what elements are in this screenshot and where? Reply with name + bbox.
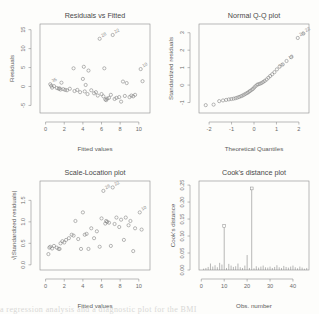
svg-text:10: 10	[141, 61, 148, 68]
svg-text:6: 6	[100, 283, 103, 289]
svg-text:0: 0	[20, 85, 26, 88]
svg-text:6: 6	[100, 126, 103, 132]
svg-text:10: 10	[221, 283, 227, 289]
svg-text:Residuals: Residuals	[8, 55, 15, 82]
normal-qq-svg: Normal Q-Q plot-2-1012Theoretical Quanti…	[159, 0, 319, 157]
svg-text:0.5: 0.5	[20, 239, 26, 247]
svg-text:0.00: 0.00	[179, 265, 185, 276]
svg-text:2: 2	[63, 126, 66, 132]
svg-text:0.0: 0.0	[20, 261, 26, 269]
svg-text:-1: -1	[229, 126, 234, 132]
svg-text:30: 30	[267, 283, 273, 289]
svg-text:10: 10	[287, 53, 294, 60]
svg-text:0.10: 0.10	[179, 231, 185, 242]
svg-text:Standardized residuals: Standardized residuals	[167, 37, 174, 100]
svg-text:1: 1	[179, 66, 185, 69]
svg-text:8: 8	[119, 283, 122, 289]
page-cutoff-text: a regression analysis and a diagnostic p…	[0, 305, 319, 314]
panel-residuals-vs-fitted: Residuals vs Fitted0246810Fitted values-…	[0, 0, 159, 157]
svg-text:√|Standardized residuals|: √|Standardized residuals|	[10, 190, 17, 260]
svg-text:-1: -1	[179, 100, 185, 105]
svg-text:33: 33	[278, 62, 285, 69]
svg-text:0: 0	[252, 126, 255, 132]
svg-text:28: 28	[100, 31, 107, 38]
svg-text:28: 28	[104, 183, 111, 190]
svg-text:Cook's distance: Cook's distance	[169, 203, 176, 247]
diagnostic-plot-grid: Residuals vs Fitted0246810Fitted values-…	[0, 0, 319, 314]
svg-text:10: 10	[136, 283, 142, 289]
svg-text:35: 35	[51, 76, 58, 83]
svg-text:Cook's distance plot: Cook's distance plot	[222, 168, 286, 177]
svg-text:0: 0	[44, 126, 47, 132]
cd-content: Cook's distance plot010203040Obs. number…	[169, 168, 309, 309]
svg-text:10: 10	[20, 45, 26, 51]
svg-text:0: 0	[179, 84, 185, 87]
qq-content: Normal Q-Q plot-2-1012Theoretical Quanti…	[167, 11, 311, 152]
svg-text:1: 1	[275, 126, 278, 132]
svg-text:-5: -5	[20, 103, 26, 108]
svg-text:15: 15	[20, 27, 26, 33]
svg-text:0: 0	[44, 283, 47, 289]
scale-location-svg: Scale-Location plot0246810Fitted values0…	[0, 157, 159, 314]
svg-text:22: 22	[113, 27, 120, 34]
residuals-vs-fitted-svg: Residuals vs Fitted0246810Fitted values-…	[0, 0, 159, 157]
svg-text:Normal Q-Q plot: Normal Q-Q plot	[228, 11, 280, 20]
svg-text:0.25: 0.25	[179, 180, 185, 191]
svg-text:0.05: 0.05	[179, 248, 185, 259]
svg-text:4: 4	[81, 283, 84, 289]
svg-text:4: 4	[81, 126, 84, 132]
svg-text:40: 40	[290, 283, 296, 289]
svg-text:2: 2	[63, 283, 66, 289]
svg-text:Fitted values: Fitted values	[77, 145, 112, 152]
svg-text:1.5: 1.5	[20, 196, 26, 204]
cooks-distance-svg: Cook's distance plot010203040Obs. number…	[159, 157, 319, 314]
svg-text:-2: -2	[207, 126, 212, 132]
svg-text:5: 5	[20, 66, 26, 69]
svg-text:8: 8	[119, 126, 122, 132]
svg-text:2: 2	[297, 126, 300, 132]
svg-text:0.20: 0.20	[179, 197, 185, 208]
rvf-content: Residuals vs Fitted0246810Fitted values-…	[8, 11, 150, 152]
svg-text:Residuals vs Fitted: Residuals vs Fitted	[65, 11, 126, 20]
svg-text:0: 0	[200, 283, 203, 289]
svg-text:20: 20	[244, 283, 250, 289]
panel-scale-location: Scale-Location plot0246810Fitted values0…	[0, 157, 159, 314]
svg-text:22: 22	[304, 26, 311, 33]
svg-text:1.0: 1.0	[20, 218, 26, 226]
svg-text:2: 2	[179, 49, 185, 52]
panel-cooks-distance: Cook's distance plot010203040Obs. number…	[159, 157, 319, 314]
svg-text:10: 10	[140, 205, 147, 212]
svg-text:Theoretical Quantiles: Theoretical Quantiles	[225, 145, 283, 152]
svg-text:0.15: 0.15	[179, 214, 185, 225]
svg-text:3: 3	[179, 31, 185, 34]
panel-normal-qq: Normal Q-Q plot-2-1012Theoretical Quanti…	[159, 0, 319, 157]
svg-text:Scale-Location plot: Scale-Location plot	[64, 168, 125, 177]
svg-text:10: 10	[136, 126, 142, 132]
sl-content: Scale-Location plot0246810Fitted values0…	[10, 168, 150, 309]
